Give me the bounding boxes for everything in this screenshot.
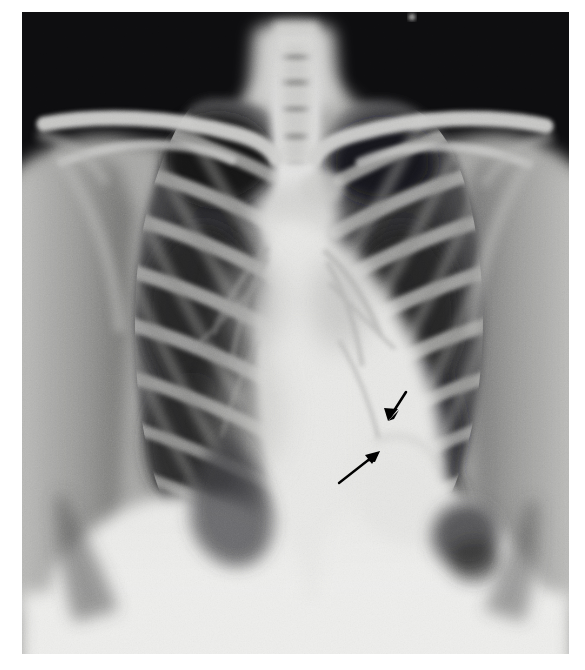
film-bottom-strip bbox=[22, 654, 569, 661]
film-grain-2 bbox=[22, 12, 569, 661]
radiograph-image bbox=[22, 12, 569, 661]
radiograph-svg bbox=[22, 12, 569, 661]
radiograph-content bbox=[22, 12, 569, 661]
xray-page bbox=[0, 0, 585, 670]
